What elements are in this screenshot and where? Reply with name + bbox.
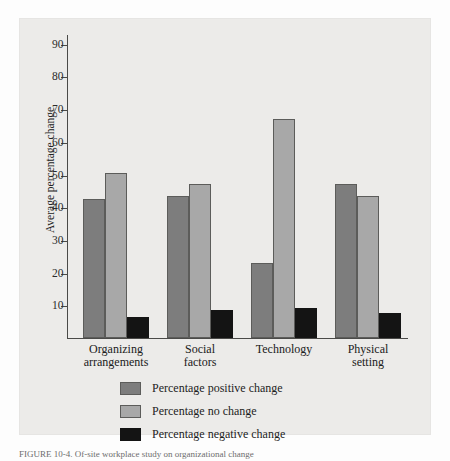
bar xyxy=(83,199,105,338)
legend-swatch xyxy=(120,382,141,395)
bar-group xyxy=(83,35,149,338)
legend-label: Percentage negative change xyxy=(152,427,285,442)
y-tick-label: 70 xyxy=(52,104,55,116)
y-tick-label: 90 xyxy=(52,39,55,51)
chart-legend: Percentage positive changePercentage no … xyxy=(120,379,285,448)
legend-item: Percentage no change xyxy=(120,402,285,421)
bar-group xyxy=(167,35,233,338)
x-category-label: Physicalsetting xyxy=(311,343,425,369)
bar xyxy=(105,173,127,338)
x-axis-line xyxy=(67,338,408,339)
figure-caption: FIGURE 10-4. Of-site workplace study on … xyxy=(19,449,431,461)
y-tick-label: 10 xyxy=(52,301,55,313)
bar xyxy=(127,317,149,338)
y-tick-label: 40 xyxy=(52,202,55,214)
y-tick-label: 20 xyxy=(52,268,55,280)
bar-group xyxy=(335,35,401,338)
bar xyxy=(335,184,357,338)
legend-swatch xyxy=(120,428,141,441)
bar xyxy=(211,310,233,338)
y-tick-label: 60 xyxy=(52,137,55,149)
figure-page: Average percentage change 10203040506070… xyxy=(0,0,450,461)
bar xyxy=(295,308,317,338)
bar xyxy=(357,196,379,338)
bar xyxy=(379,313,401,338)
legend-label: Percentage positive change xyxy=(152,381,283,396)
legend-label: Percentage no change xyxy=(152,404,257,419)
y-tick-label: 30 xyxy=(52,235,55,247)
bar-group xyxy=(251,35,317,338)
y-tick-label: 80 xyxy=(52,72,55,84)
bar xyxy=(189,184,211,338)
bar xyxy=(273,119,295,338)
chart-panel: Average percentage change 10203040506070… xyxy=(19,18,431,435)
x-category-label-line: setting xyxy=(311,356,425,369)
bar xyxy=(251,263,273,338)
legend-item: Percentage negative change xyxy=(120,425,285,444)
x-category-label-line: factors xyxy=(143,356,257,369)
legend-swatch xyxy=(120,405,141,418)
plot-area: 102030405060708090 Organizingarrangement… xyxy=(67,35,407,339)
y-axis-line xyxy=(67,35,68,339)
y-tick-label: 50 xyxy=(52,170,55,182)
bar xyxy=(167,196,189,338)
legend-item: Percentage positive change xyxy=(120,379,285,398)
